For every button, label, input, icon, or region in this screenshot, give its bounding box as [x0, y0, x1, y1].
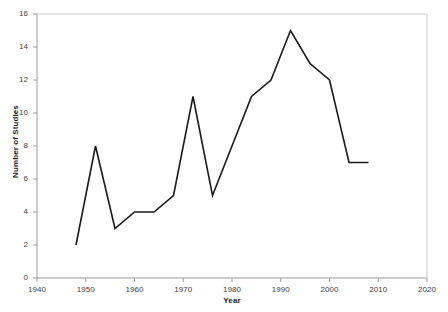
ytick-label-12: 12	[12, 75, 28, 84]
xtick-label-1970: 1970	[166, 285, 200, 294]
xtick-label-1950: 1950	[69, 285, 103, 294]
xtick-label-2020: 2020	[410, 285, 444, 294]
xtick-label-1980: 1980	[215, 285, 249, 294]
y-tick-marks	[33, 14, 37, 278]
data-series-line	[76, 31, 369, 246]
xtick-label-2000: 2000	[313, 285, 347, 294]
x-tick-marks	[37, 278, 427, 282]
xtick-label-1990: 1990	[264, 285, 298, 294]
ytick-label-4: 4	[12, 207, 28, 216]
line-chart: 0 2 4 6 8 10 12 14 16 1940 1950 1960 197…	[0, 0, 448, 312]
xtick-label-2010: 2010	[361, 285, 395, 294]
ytick-label-0: 0	[12, 273, 28, 282]
ytick-label-2: 2	[12, 240, 28, 249]
y-axis-title: Number of Studies	[11, 92, 20, 192]
plot-area	[0, 0, 448, 312]
xtick-label-1940: 1940	[20, 285, 54, 294]
ytick-label-16: 16	[12, 9, 28, 18]
xtick-label-1960: 1960	[118, 285, 152, 294]
x-axis-title: Year	[37, 296, 427, 305]
ytick-label-14: 14	[12, 42, 28, 51]
